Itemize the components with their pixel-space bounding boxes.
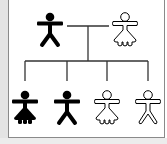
father-male-affected-icon — [37, 13, 63, 45]
child-4-male-unaffected-icon — [136, 91, 161, 124]
pedigree-diagram — [0, 0, 167, 144]
child-3-female-unaffected-icon — [95, 91, 120, 124]
mother-female-unaffected-icon — [113, 13, 138, 46]
child-1-female-affected-icon — [12, 91, 38, 124]
child-2-male-affected-icon — [54, 91, 80, 123]
